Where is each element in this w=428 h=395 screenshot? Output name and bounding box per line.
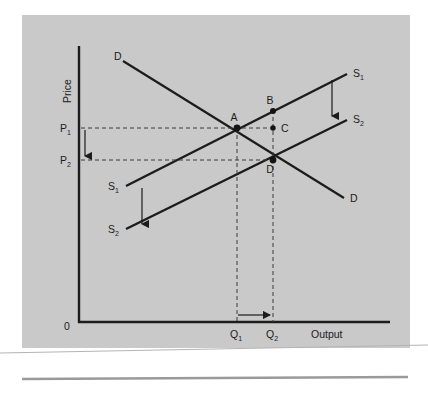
quantity-tick-q2-subscript: 2 — [274, 335, 278, 342]
price-tick-p2-subscript: 2 — [67, 161, 71, 168]
supply-s1-right-label-subscript: 1 — [360, 74, 364, 81]
supply-s1-left-label-text: S — [108, 180, 115, 192]
supply-s1-left-label-subscript: 1 — [115, 187, 119, 194]
page-bottom-rule — [22, 377, 408, 379]
demand-curve-upper-label: D — [114, 50, 122, 62]
y-axis-title: Price — [61, 79, 73, 103]
figure-container: Price Output 0 P1 P2 Q1 Q2 D D S1 S2 — [0, 0, 428, 395]
supply-s2-left-label-subscript: 2 — [115, 230, 119, 237]
point-a-marker — [234, 125, 241, 132]
price-tick-p1-subscript: 1 — [67, 129, 71, 136]
supply-demand-diagram: Price Output 0 P1 P2 Q1 Q2 D D S1 S2 — [0, 0, 428, 395]
point-b-marker — [270, 108, 276, 114]
x-axis-title: Output — [311, 328, 343, 340]
quantity-tick-q1-text: Q — [230, 328, 238, 340]
supply-s2-right-label-text: S — [353, 113, 360, 125]
supply-s1-right-label-text: S — [353, 67, 360, 79]
point-a-label: A — [230, 111, 237, 123]
supply-s2-left-label-text: S — [108, 223, 115, 235]
supply-s2-right-label-subscript: 2 — [360, 120, 364, 127]
point-b-label: B — [266, 94, 273, 106]
point-d-label: D — [266, 163, 274, 175]
quantity-tick-q2-text: Q — [266, 328, 274, 340]
quantity-tick-q1-subscript: 1 — [238, 335, 242, 342]
price-tick-p1-text: P — [60, 122, 67, 134]
demand-curve-lower-label: D — [350, 192, 358, 204]
origin-label: 0 — [64, 320, 70, 332]
point-c-label: C — [281, 122, 289, 134]
point-c-marker — [270, 125, 275, 130]
price-tick-p2-text: P — [60, 154, 67, 166]
